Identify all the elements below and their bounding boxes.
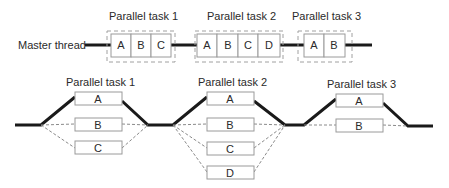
master-thread-label: Master thread — [18, 39, 86, 51]
box-label: D — [226, 167, 234, 179]
box-label: C — [94, 142, 102, 154]
cell-label: A — [203, 39, 211, 51]
bottom-task-1-label: Parallel task 1 — [66, 76, 135, 88]
master-thread-segment — [122, 97, 207, 125]
cell-label: C — [244, 39, 252, 51]
top-task-2-label: Parallel task 2 — [207, 10, 276, 22]
bottom-task-3-label: Parallel task 3 — [327, 78, 396, 90]
top-task-3-label: Parallel task 3 — [292, 10, 361, 22]
box-label: A — [226, 93, 234, 105]
box-label: B — [94, 119, 101, 131]
top-parallel-task-1: Parallel task 1 A B C — [107, 10, 178, 62]
cell-label: D — [265, 39, 273, 51]
bottom-parallel-task-2: Parallel task 2 A B C D — [198, 76, 267, 179]
top-parallel-task-3: Parallel task 3 A B — [292, 10, 361, 62]
cell-label: B — [224, 39, 231, 51]
master-thread-segment — [383, 103, 433, 126]
cell-label: A — [117, 39, 125, 51]
top-task-1-label: Parallel task 1 — [109, 10, 178, 22]
cell-label: B — [137, 39, 144, 51]
master-thread-fork-join-path — [15, 97, 75, 125]
top-parallel-task-2: Parallel task 2 A B C D — [195, 10, 283, 62]
cell-label: A — [310, 39, 318, 51]
box-label: B — [226, 119, 233, 131]
bottom-task-2-label: Parallel task 2 — [198, 76, 267, 88]
fork-join-diagram: Master thread Parallel task 1 A B C Para… — [0, 0, 449, 188]
box-label: C — [226, 143, 234, 155]
cell-label: B — [330, 39, 337, 51]
master-thread-segment — [254, 99, 336, 125]
box-label: A — [94, 93, 102, 105]
box-label: A — [355, 95, 363, 107]
cell-label: C — [157, 39, 165, 51]
bottom-parallel-task-1: Parallel task 1 A B C — [66, 76, 135, 154]
box-label: B — [355, 120, 362, 132]
